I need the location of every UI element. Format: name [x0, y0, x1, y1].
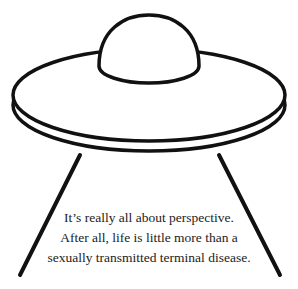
caption-line: After all, life is little more than a — [0, 228, 298, 248]
caption: It’s really all about perspective. After… — [0, 208, 298, 268]
caption-line: It’s really all about perspective. — [0, 208, 298, 228]
caption-line: sexually transmitted terminal disease. — [0, 248, 298, 268]
dome — [99, 15, 199, 83]
